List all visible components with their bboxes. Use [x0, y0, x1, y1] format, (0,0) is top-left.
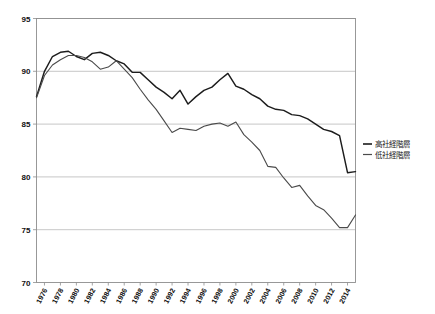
- x-tick-label: 1982: [82, 287, 97, 305]
- x-tick-label: 2006: [273, 287, 288, 305]
- y-tick-label: 85: [22, 120, 31, 129]
- x-tick-label: 2008: [289, 287, 304, 305]
- x-tick-label: 1986: [114, 287, 129, 305]
- y-axis-ticks: 707580859095: [22, 15, 37, 288]
- x-tick-label: 1978: [50, 287, 65, 305]
- x-tick-label: 1994: [178, 287, 193, 305]
- x-tick-label: 2012: [321, 287, 336, 305]
- x-tick-label: 2002: [241, 287, 256, 305]
- x-tick-label: 1996: [193, 287, 208, 305]
- x-tick-label: 1992: [162, 287, 177, 305]
- x-tick-label: 1998: [209, 287, 224, 305]
- line-chart: 707580859095 197619781980198219841986198…: [0, 0, 435, 314]
- gridlines: [37, 19, 356, 230]
- x-axis-ticks: 1976197819801982198419861988199019921994…: [34, 283, 353, 306]
- x-tick-label: 2004: [257, 287, 272, 305]
- x-tick-label: 1988: [130, 287, 145, 305]
- x-tick-label: 1984: [98, 287, 113, 305]
- series-line-high: [37, 51, 356, 172]
- series-line-low: [37, 55, 356, 227]
- y-tick-label: 90: [22, 67, 31, 76]
- chart-legend: 高社経階層低社経階層: [363, 139, 410, 160]
- x-tick-label: 1976: [34, 287, 49, 305]
- chart-container: 707580859095 197619781980198219841986198…: [0, 0, 435, 314]
- y-tick-label: 95: [22, 15, 31, 24]
- data-series: [37, 51, 356, 227]
- legend-label-0: 高社経階層: [375, 139, 410, 149]
- x-tick-label: 2000: [225, 287, 240, 305]
- legend-label-1: 低社経階層: [375, 150, 410, 160]
- x-tick-label: 1980: [66, 287, 81, 305]
- y-tick-label: 75: [22, 226, 31, 235]
- x-tick-label: 2010: [305, 287, 320, 305]
- y-tick-label: 70: [22, 279, 31, 288]
- x-tick-label: 1990: [146, 287, 161, 305]
- x-tick-label: 2014: [337, 287, 352, 305]
- y-tick-label: 80: [22, 173, 31, 182]
